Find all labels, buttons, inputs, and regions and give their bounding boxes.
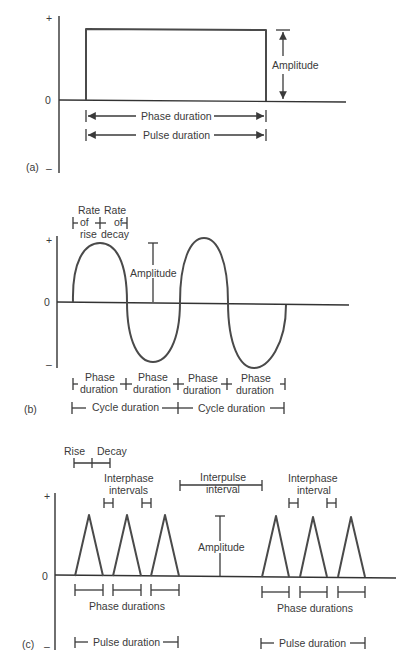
interphase-interval-label-line2: interval <box>297 484 331 496</box>
amplitude-label: Amplitude <box>198 541 245 553</box>
axis-zero-label: 0 <box>44 296 50 308</box>
phase-duration-2-line2: duration <box>133 383 171 395</box>
phase-durations-right-label: Phase durations <box>277 602 353 614</box>
zero-baseline <box>55 575 396 578</box>
rate-of-decay-label-line3: decay <box>101 228 130 240</box>
axis-plus-label: + <box>44 490 50 502</box>
panel-c-pulsed-triangular-waveform: + 0 – (c) Rise Decay Interphase interval… <box>22 445 396 652</box>
panel-label: (a) <box>26 161 39 173</box>
phase-duration-3-line1: Phase <box>188 372 218 384</box>
axis-minus-label: – <box>46 162 52 174</box>
pulse-duration-left-label: Pulse duration <box>93 636 160 648</box>
rate-of-rise-label-line1: Rate <box>78 204 100 216</box>
zero-baseline <box>57 302 349 305</box>
zero-baseline <box>59 100 346 102</box>
phase-durations-left-label: Phase durations <box>89 600 165 612</box>
axis-minus-label: – <box>46 358 52 370</box>
panel-b-sinusoidal-waveform: + 0 – (b) Rate Rate of of rise decay Amp… <box>24 204 349 415</box>
triangle-phase-4 <box>262 516 289 577</box>
panel-label: (c) <box>22 638 34 650</box>
triangle-phase-1 <box>75 515 103 576</box>
axis-minus-label: – <box>44 640 50 652</box>
phase-duration-label: Phase duration <box>141 110 212 122</box>
rectangular-pulse <box>86 29 266 101</box>
interphase-interval-label-line1: Interphase <box>288 472 338 484</box>
triangle-phase-6 <box>338 517 365 577</box>
phase-duration-4-line2: duration <box>236 384 274 396</box>
amplitude-label: Amplitude <box>272 59 319 71</box>
interphase-intervals-label-line1: Interphase <box>104 472 154 484</box>
interphase-interval-brackets-left <box>104 498 151 508</box>
rate-of-decay-label-line1: Rate <box>104 204 126 216</box>
panel-a-monophasic-pulse: + 0 – (a) Amplitude Phase duration Pulse… <box>26 12 346 174</box>
rate-of-decay-label-line2: of <box>114 216 123 228</box>
cycle-duration-2-label: Cycle duration <box>198 402 265 414</box>
interphase-interval-brackets-right <box>289 498 336 508</box>
amplitude-label: Amplitude <box>130 267 177 279</box>
pulse-duration-right-label: Pulse duration <box>279 637 346 649</box>
panel-label: (b) <box>24 403 37 415</box>
triangle-phase-3 <box>151 515 179 576</box>
interphase-intervals-label-line2: intervals <box>109 484 148 496</box>
interpulse-interval-label-line1: Interpulse <box>200 471 246 483</box>
phase-duration-brackets-right <box>262 586 365 598</box>
decay-label: Decay <box>97 445 128 457</box>
pulse-duration-label: Pulse duration <box>143 129 210 141</box>
phase-duration-1-line1: Phase <box>85 371 115 383</box>
triangle-phase-5 <box>300 517 327 577</box>
axis-zero-label: 0 <box>42 570 48 582</box>
rate-of-rise-label-line3: rise <box>80 228 97 240</box>
rise-decay-bracket <box>74 458 110 468</box>
phase-duration-brackets-left <box>75 584 179 596</box>
axis-zero-label: 0 <box>45 94 51 106</box>
waveform-parameters-figure: + 0 – (a) Amplitude Phase duration Pulse… <box>0 0 408 672</box>
triangle-phase-2 <box>113 515 141 576</box>
cycle-duration-1-label: Cycle duration <box>92 401 159 413</box>
rise-label: Rise <box>64 445 85 457</box>
phase-duration-4-line1: Phase <box>241 372 271 384</box>
rate-of-rise-label-line2: of <box>80 216 89 228</box>
phase-duration-2-line1: Phase <box>138 371 168 383</box>
phase-duration-3-line2: duration <box>183 384 221 396</box>
axis-plus-label: + <box>46 12 52 24</box>
axis-plus-label: + <box>46 234 52 246</box>
phase-duration-1-line2: duration <box>80 383 118 395</box>
